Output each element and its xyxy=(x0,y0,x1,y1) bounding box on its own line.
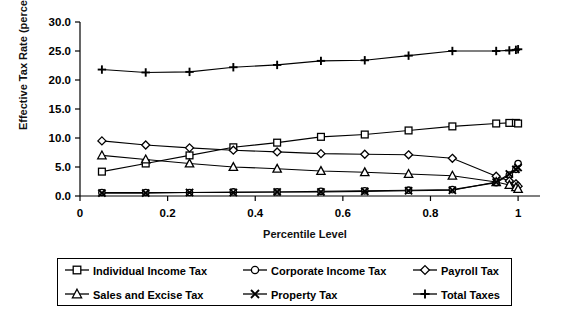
data-point xyxy=(251,266,258,273)
data-point xyxy=(98,137,106,145)
series-individual-income-tax xyxy=(99,120,522,176)
y-tick-label: 0.0 xyxy=(55,190,71,202)
x-tick-label: 0 xyxy=(77,207,83,219)
legend-item-property-tax[interactable]: Property Tax xyxy=(242,287,412,303)
legend-item-individual-income-tax[interactable]: Individual Income Tax xyxy=(64,263,242,279)
data-point xyxy=(186,144,194,152)
data-point xyxy=(361,56,369,64)
series-property-tax xyxy=(98,164,521,197)
series-payroll-tax xyxy=(98,137,522,190)
legend-label: Corporate Income Tax xyxy=(271,266,386,277)
legend-item-sales-and-excise-tax[interactable]: Sales and Excise Tax xyxy=(64,287,242,303)
triangle-icon xyxy=(64,287,90,303)
series-total-taxes xyxy=(98,45,523,77)
data-point xyxy=(405,127,412,134)
data-point xyxy=(317,150,325,158)
data-point xyxy=(142,141,150,149)
x-tick-label: 0.4 xyxy=(247,207,264,219)
data-point xyxy=(420,289,429,298)
chart-container: Effective Tax Rate (percent) 0.05.010.01… xyxy=(0,0,568,314)
series-line xyxy=(102,49,518,72)
x-axis-title: Percentile Level xyxy=(80,228,530,240)
y-tick-label: 20.0 xyxy=(49,74,71,86)
data-point xyxy=(98,151,106,159)
series-sales-and-excise-tax xyxy=(98,151,523,192)
series-line xyxy=(102,168,518,194)
data-point xyxy=(506,120,513,127)
plus-icon xyxy=(412,287,438,303)
legend-label: Payroll Tax xyxy=(441,266,499,277)
x-tick-label: 0.8 xyxy=(422,207,439,219)
data-point xyxy=(142,68,150,76)
data-point xyxy=(449,123,456,130)
chart-legend: Individual Income Tax Corporate Income T… xyxy=(57,258,512,306)
legend-row-2: Sales and Excise Tax Property Tax Total … xyxy=(58,283,511,307)
series-corporate-income-tax xyxy=(99,160,522,195)
legend-item-payroll-tax[interactable]: Payroll Tax xyxy=(412,263,499,279)
legend-row-1: Individual Income Tax Corporate Income T… xyxy=(58,259,511,283)
data-point xyxy=(361,131,368,138)
data-point xyxy=(405,151,413,159)
y-tick-label: 15.0 xyxy=(49,103,71,115)
legend-item-total-taxes[interactable]: Total Taxes xyxy=(412,287,500,303)
x-tick-label: 1 xyxy=(515,207,522,219)
data-point xyxy=(448,154,456,162)
y-tick-label: 30.0 xyxy=(49,16,71,28)
data-point xyxy=(361,150,369,158)
data-point xyxy=(515,120,522,127)
cross-x-icon xyxy=(242,287,268,303)
y-tick-label: 10.0 xyxy=(49,132,71,144)
diamond-icon xyxy=(412,263,438,279)
x-tick-label: 0.2 xyxy=(160,207,176,219)
data-point xyxy=(185,68,193,76)
data-point xyxy=(99,168,106,175)
data-point xyxy=(273,61,281,69)
legend-label: Sales and Excise Tax xyxy=(93,290,203,301)
legend-item-corporate-income-tax[interactable]: Corporate Income Tax xyxy=(242,263,412,279)
data-point xyxy=(98,65,106,73)
legend-label: Property Tax xyxy=(271,290,337,301)
data-point xyxy=(73,266,81,274)
circle-icon xyxy=(242,263,268,279)
data-point xyxy=(318,133,325,140)
data-point xyxy=(492,47,500,55)
square-icon xyxy=(64,263,90,279)
legend-label: Total Taxes xyxy=(441,290,500,301)
legend-label: Individual Income Tax xyxy=(93,266,207,277)
data-point xyxy=(404,51,412,59)
y-tick-label: 5.0 xyxy=(55,161,71,173)
x-tick-label: 0.6 xyxy=(335,207,351,219)
data-point xyxy=(493,120,500,127)
y-tick-label: 25.0 xyxy=(49,45,71,57)
data-point xyxy=(421,266,430,275)
data-point xyxy=(273,148,281,156)
data-point xyxy=(229,63,237,71)
data-point xyxy=(274,139,281,146)
data-point xyxy=(317,57,325,65)
data-point xyxy=(448,47,456,55)
